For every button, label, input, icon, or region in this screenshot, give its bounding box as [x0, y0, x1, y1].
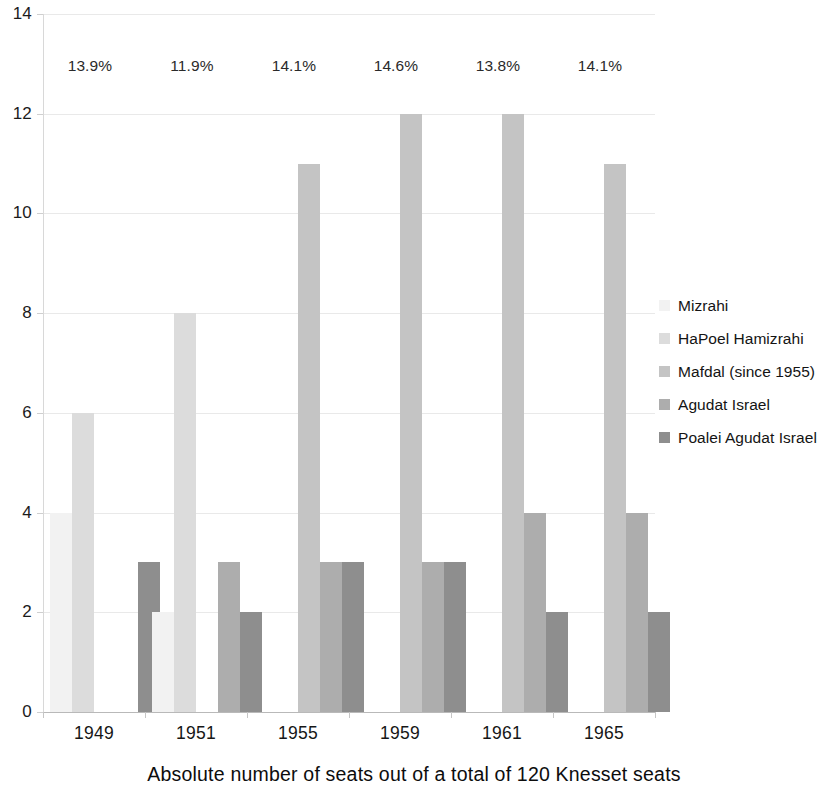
percentage-label: 13.8% [476, 57, 520, 75]
percentage-label: 14.1% [272, 57, 316, 75]
gridline [43, 213, 655, 214]
bar [400, 114, 422, 712]
x-axis-tick-mark [43, 712, 44, 718]
legend-swatch-icon [659, 300, 670, 311]
chart-caption: Absolute number of seats out of a total … [0, 763, 828, 786]
gridline [43, 14, 655, 15]
plot-area [43, 14, 655, 712]
x-axis-tick-label: 1951 [176, 723, 216, 744]
x-axis-tick-mark [145, 712, 146, 718]
bar-chart-figure: 02468101214 194919511955195919611965 13.… [0, 0, 828, 798]
bar [444, 562, 466, 712]
gridline [43, 114, 655, 115]
bar [648, 612, 670, 712]
x-axis-tick-label: 1959 [380, 723, 420, 744]
x-axis-tick-mark [247, 712, 248, 718]
legend-swatch-icon [659, 432, 670, 443]
legend-swatch-icon [659, 399, 670, 410]
x-axis-tick-label: 1965 [584, 723, 624, 744]
legend-item[interactable]: Poalei Agudat Israel [659, 421, 827, 454]
bar [50, 513, 72, 712]
y-axis-tick-mark [37, 513, 43, 514]
bar [174, 313, 196, 712]
legend-item[interactable]: HaPoel Hamizrahi [659, 322, 827, 355]
y-axis-tick-mark [37, 612, 43, 613]
y-axis-tick-label: 8 [0, 303, 32, 323]
x-axis-tick-mark [451, 712, 452, 718]
y-axis-line [43, 14, 44, 713]
y-axis-tick-label: 6 [0, 403, 32, 423]
y-axis-tick-mark [37, 313, 43, 314]
legend-item[interactable]: Mizrahi [659, 289, 827, 322]
gridline [43, 413, 655, 414]
bar [240, 612, 262, 712]
legend-swatch-icon [659, 333, 670, 344]
bar [604, 164, 626, 712]
bar [72, 413, 94, 712]
x-axis-tick-label: 1961 [482, 723, 522, 744]
bar [502, 114, 524, 712]
x-axis-tick-mark [655, 712, 656, 718]
legend-label: Poalei Agudat Israel [678, 429, 817, 447]
x-axis-tick-mark [349, 712, 350, 718]
gridline [43, 313, 655, 314]
bar [152, 612, 174, 712]
x-axis-tick-mark [553, 712, 554, 718]
y-axis-tick-label: 4 [0, 503, 32, 523]
y-axis-tick-label: 12 [0, 104, 32, 124]
percentage-label: 14.1% [578, 57, 622, 75]
y-axis-tick-mark [37, 14, 43, 15]
bar [524, 513, 546, 712]
gridline [43, 513, 655, 514]
bar [546, 612, 568, 712]
bar [320, 562, 342, 712]
bar [298, 164, 320, 712]
bar [218, 562, 240, 712]
x-axis-tick-label: 1955 [278, 723, 318, 744]
y-axis-tick-label: 10 [0, 203, 32, 223]
legend-item[interactable]: Agudat Israel [659, 388, 827, 421]
legend-label: Agudat Israel [678, 396, 770, 414]
y-axis-tick-mark [37, 213, 43, 214]
y-axis-tick-mark [37, 413, 43, 414]
bar [422, 562, 444, 712]
chart-legend: MizrahiHaPoel HamizrahiMafdal (since 195… [659, 289, 827, 454]
percentage-label: 13.9% [68, 57, 112, 75]
percentage-label: 11.9% [170, 57, 213, 75]
percentage-label: 14.6% [374, 57, 418, 75]
legend-item[interactable]: Mafdal (since 1955) [659, 355, 827, 388]
legend-swatch-icon [659, 366, 670, 377]
x-axis-tick-label: 1949 [74, 723, 114, 744]
legend-label: Mafdal (since 1955) [678, 363, 815, 381]
y-axis-tick-mark [37, 114, 43, 115]
bar [342, 562, 364, 712]
legend-label: HaPoel Hamizrahi [678, 330, 804, 348]
legend-label: Mizrahi [678, 297, 728, 315]
y-axis-tick-label: 2 [0, 602, 32, 622]
y-axis-tick-label: 0 [0, 702, 32, 722]
y-axis-tick-label: 14 [0, 4, 32, 24]
bar [626, 513, 648, 712]
